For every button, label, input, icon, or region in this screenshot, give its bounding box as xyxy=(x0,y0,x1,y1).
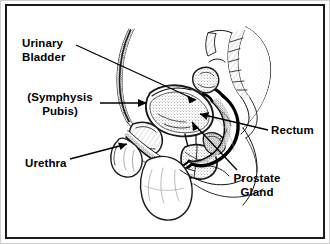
label-prostate-gland: Prostate Gland xyxy=(218,172,296,199)
label-text-group: Urinary Bladder (Symphysis Pubis) Urethr… xyxy=(0,0,330,244)
label-rectum: Rectum xyxy=(271,124,314,138)
diagram-page: Urinary Bladder (Symphysis Pubis) Urethr… xyxy=(0,0,330,244)
illustration-canvas: Urinary Bladder (Symphysis Pubis) Urethr… xyxy=(0,0,330,244)
label-urinary-bladder: Urinary Bladder xyxy=(22,37,66,64)
label-symphysis-pubis: (Symphysis Pubis) xyxy=(8,91,112,118)
label-urethra: Urethra xyxy=(25,157,67,171)
